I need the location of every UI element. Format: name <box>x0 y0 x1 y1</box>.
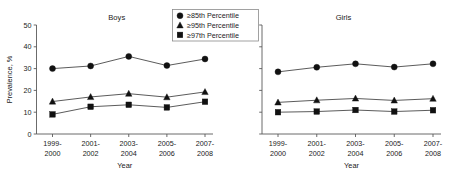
y-tick-label: 40 <box>24 42 32 51</box>
legend-entry-square: ≥97th Percentile <box>177 31 239 40</box>
legend: ≥85th Percentile≥95th Percentile≥97th Pe… <box>173 10 259 42</box>
panel-title: Girls <box>336 13 352 22</box>
x-tick-label-line1: 2001- <box>81 139 100 148</box>
marker-square-0 <box>50 112 56 118</box>
x-axis-title: Year <box>117 161 132 170</box>
marker-triangle-2 <box>126 90 132 96</box>
marker-circle-1 <box>314 64 320 70</box>
marker-square-4 <box>202 99 208 105</box>
marker-square-legend <box>177 32 183 38</box>
legend-entry-label: ≥95th Percentile <box>187 21 239 30</box>
x-tick-label-line1: 2007- <box>424 139 443 148</box>
x-tick-label-line1: 1999- <box>43 139 62 148</box>
marker-circle-0 <box>50 66 56 72</box>
panel-title: Boys <box>108 13 125 22</box>
y-axis-title: Prevalence, % <box>5 55 14 103</box>
marker-square-2 <box>126 102 132 108</box>
x-tick-label-line2: 2008 <box>425 149 441 158</box>
marker-square-1 <box>88 104 94 110</box>
series-triangle <box>275 95 436 105</box>
marker-circle-1 <box>88 63 94 69</box>
x-tick-label-line1: 2003- <box>346 139 365 148</box>
marker-triangle-2 <box>352 95 358 101</box>
x-tick-label-line2: 2008 <box>197 149 213 158</box>
marker-circle-3 <box>164 63 170 69</box>
marker-square-3 <box>391 109 397 115</box>
panel-girls: 1999-20002001-20022003-20042005-20062007… <box>259 13 443 170</box>
y-tick-label: 50 <box>24 21 32 30</box>
x-tick-label-line1: 2005- <box>158 139 177 148</box>
prevalence-trend-figure: 010203040501999-20002001-20022003-200420… <box>0 0 458 181</box>
series-square <box>275 107 436 115</box>
x-tick-label-line1: 2001- <box>308 139 327 148</box>
x-tick-label-line1: 2007- <box>196 139 215 148</box>
x-tick-label-line2: 2002 <box>309 149 325 158</box>
x-tick-label-line2: 2004 <box>121 149 137 158</box>
y-tick-label: 20 <box>24 86 32 95</box>
legend-entry-label: ≥97th Percentile <box>187 31 239 40</box>
y-tick-label: 0 <box>28 130 32 139</box>
marker-circle-2 <box>353 61 359 67</box>
legend-entry-triangle: ≥95th Percentile <box>177 21 239 30</box>
x-tick-label-line2: 2000 <box>45 149 61 158</box>
x-tick-label-line2: 2006 <box>386 149 402 158</box>
marker-square-2 <box>353 107 359 113</box>
series-square <box>50 99 208 117</box>
x-tick-label-line2: 2004 <box>348 149 364 158</box>
chart-canvas: 010203040501999-20002001-20022003-200420… <box>0 0 458 181</box>
x-tick-label-line2: 2002 <box>83 149 99 158</box>
marker-circle-2 <box>126 53 132 59</box>
marker-triangle-4 <box>430 95 436 101</box>
marker-circle-0 <box>275 69 281 75</box>
series-circle <box>275 61 436 75</box>
marker-triangle-4 <box>202 89 208 95</box>
marker-square-1 <box>314 109 320 115</box>
legend-entry-label: ≥85th Percentile <box>187 11 239 20</box>
x-tick-label-line1: 1999- <box>269 139 288 148</box>
marker-circle-3 <box>391 64 397 70</box>
marker-circle-4 <box>430 61 436 67</box>
series-circle <box>50 53 209 71</box>
marker-circle-legend <box>177 13 183 19</box>
legend-entry-circle: ≥85th Percentile <box>177 11 239 20</box>
y-tick-label: 10 <box>24 108 32 117</box>
y-tick-label: 30 <box>24 64 32 73</box>
marker-square-4 <box>430 107 436 113</box>
x-tick-label-line1: 2003- <box>120 139 139 148</box>
marker-circle-4 <box>202 56 208 62</box>
x-tick-label-line2: 2000 <box>270 149 286 158</box>
marker-square-3 <box>164 105 170 111</box>
x-tick-label-line1: 2005- <box>385 139 404 148</box>
x-tick-label-line2: 2006 <box>159 149 175 158</box>
marker-square-0 <box>275 109 281 115</box>
x-axis-title: Year <box>344 161 359 170</box>
